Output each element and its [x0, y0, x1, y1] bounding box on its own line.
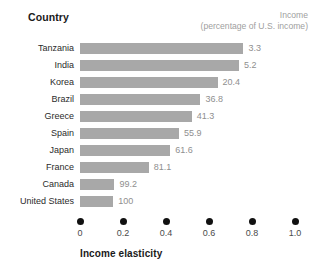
- tick-dot-icon: [249, 218, 256, 225]
- bar: [80, 77, 218, 88]
- bar-area: 5.2: [80, 58, 322, 75]
- chart-row: Spain55.9: [0, 126, 322, 143]
- column-header-country: Country: [28, 11, 69, 23]
- row-label-country: Tanzania: [0, 43, 74, 53]
- bar-area: 61.6: [80, 143, 322, 160]
- column-header-income-line2: (percentage of U.S. income): [201, 21, 308, 32]
- row-label-country: France: [0, 162, 74, 172]
- tick-label: 0: [65, 228, 95, 238]
- bar: [80, 128, 179, 139]
- bar-area: 99.2: [80, 177, 322, 194]
- bar: [80, 145, 170, 156]
- tick-label: 0.4: [151, 228, 181, 238]
- x-axis-tick: 0.6: [194, 218, 224, 238]
- tick-label: 0.8: [237, 228, 267, 238]
- tick-label: 1.0: [280, 228, 310, 238]
- chart-row: Greece41.3: [0, 109, 322, 126]
- bar: [80, 60, 239, 71]
- bar: [80, 43, 243, 54]
- row-label-country: Japan: [0, 145, 74, 155]
- x-axis-tick: 0.2: [108, 218, 138, 238]
- row-label-country: United States: [0, 196, 74, 206]
- x-axis-title: Income elasticity: [80, 248, 162, 259]
- row-label-country: Greece: [0, 111, 74, 121]
- x-axis-tick: 0: [65, 218, 95, 238]
- bar-value-label: 20.4: [223, 77, 241, 88]
- column-header-income: Income (percentage of U.S. income): [201, 10, 308, 32]
- bar-area: 20.4: [80, 75, 322, 92]
- chart-row: India5.2: [0, 58, 322, 75]
- row-label-country: India: [0, 60, 74, 70]
- chart-rows: Tanzania3.3India5.2Korea20.4Brazil36.8Gr…: [0, 41, 322, 211]
- row-label-country: Spain: [0, 128, 74, 138]
- bar-value-label: 36.8: [205, 94, 223, 105]
- chart-row: Canada99.2: [0, 177, 322, 194]
- bar-area: 81.1: [80, 160, 322, 177]
- row-label-country: Canada: [0, 179, 74, 189]
- chart-row: Japan61.6: [0, 143, 322, 160]
- bar-value-label: 100: [118, 196, 133, 207]
- bar-value-label: 41.3: [197, 111, 215, 122]
- chart-row: Korea20.4: [0, 75, 322, 92]
- chart-row: France81.1: [0, 160, 322, 177]
- row-label-country: Korea: [0, 77, 74, 87]
- tick-dot-icon: [77, 218, 84, 225]
- bar: [80, 94, 200, 105]
- bar: [80, 196, 113, 207]
- x-axis-tick: 0.4: [151, 218, 181, 238]
- tick-label: 0.6: [194, 228, 224, 238]
- chart-row: United States100: [0, 194, 322, 211]
- bar-value-label: 99.2: [119, 179, 137, 190]
- tick-dot-icon: [206, 218, 213, 225]
- tick-dot-icon: [292, 218, 299, 225]
- bar: [80, 111, 192, 122]
- row-label-country: Brazil: [0, 94, 74, 104]
- x-axis-tick: 0.8: [237, 218, 267, 238]
- bar-value-label: 61.6: [175, 145, 193, 156]
- column-header-income-line1: Income: [201, 10, 308, 21]
- bar-area: 55.9: [80, 126, 322, 143]
- x-axis: 00.20.40.60.81.0: [80, 218, 295, 248]
- bar-area: 100: [80, 194, 322, 211]
- bar-value-label: 55.9: [184, 128, 202, 139]
- tick-dot-icon: [163, 218, 170, 225]
- bar: [80, 162, 149, 173]
- bar-value-label: 3.3: [248, 43, 261, 54]
- tick-dot-icon: [120, 218, 127, 225]
- bar: [80, 179, 114, 190]
- bar-area: 3.3: [80, 41, 322, 58]
- bar-value-label: 5.2: [244, 60, 257, 71]
- chart-row: Brazil36.8: [0, 92, 322, 109]
- bar-value-label: 81.1: [154, 162, 172, 173]
- tick-label: 0.2: [108, 228, 138, 238]
- income-elasticity-chart: Country Income (percentage of U.S. incom…: [0, 0, 322, 273]
- bar-area: 41.3: [80, 109, 322, 126]
- bar-area: 36.8: [80, 92, 322, 109]
- chart-row: Tanzania3.3: [0, 41, 322, 58]
- x-axis-tick: 1.0: [280, 218, 310, 238]
